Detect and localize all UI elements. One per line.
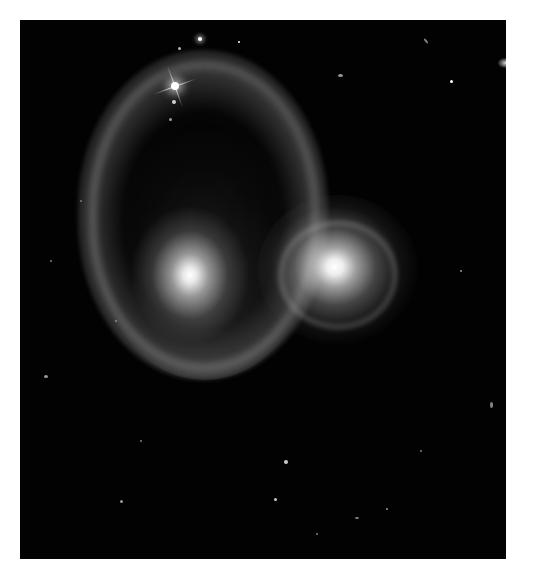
star <box>423 38 428 44</box>
star <box>274 498 277 501</box>
star <box>50 260 52 262</box>
star <box>284 460 288 464</box>
star <box>172 100 176 104</box>
galaxy-core-left <box>130 205 250 345</box>
star <box>178 47 181 50</box>
star <box>169 118 172 121</box>
star <box>140 440 142 442</box>
star <box>450 80 453 83</box>
star <box>44 375 48 378</box>
star <box>460 270 462 272</box>
star <box>115 320 117 322</box>
star <box>316 533 318 535</box>
star <box>386 508 388 510</box>
star <box>355 517 359 519</box>
star <box>338 74 343 77</box>
galaxy-core-right <box>258 195 418 345</box>
star <box>80 200 82 202</box>
star <box>120 500 123 503</box>
star <box>490 402 493 408</box>
star <box>238 41 240 43</box>
star <box>420 450 422 452</box>
galaxy-small <box>498 58 506 68</box>
galaxy-photo <box>20 20 506 559</box>
star <box>198 37 202 41</box>
